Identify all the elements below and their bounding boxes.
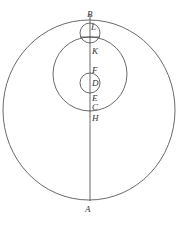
label-c: C [92, 102, 99, 112]
label-f: F [91, 65, 98, 75]
label-l: L [90, 22, 96, 32]
diagram: B L K F D E C H A [0, 0, 180, 227]
label-a: A [84, 204, 91, 214]
outer-circle [3, 20, 175, 200]
label-d: D [91, 78, 99, 88]
label-h: H [91, 113, 99, 123]
label-k: K [91, 46, 99, 56]
label-b: B [87, 9, 93, 19]
